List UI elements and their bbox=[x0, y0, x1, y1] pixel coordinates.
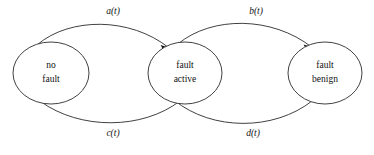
transition-b-t-path bbox=[179, 23, 312, 47]
state-node-no-fault[interactable]: no fault bbox=[13, 42, 89, 104]
state-node-fault-benign[interactable]: fault benign bbox=[288, 42, 362, 104]
transition-d-t-label: d(t) bbox=[246, 128, 260, 139]
transition-a-t-label: a(t) bbox=[106, 6, 120, 17]
transition-b-t: b(t) bbox=[179, 6, 312, 48]
state-fault-benign-label-line1: fault bbox=[316, 60, 334, 70]
state-no-fault-label-line1: no bbox=[46, 60, 56, 70]
state-no-fault-label-line2: fault bbox=[42, 74, 60, 84]
state-fault-active-label-line1: fault bbox=[176, 60, 194, 70]
transition-c-t: c(t) bbox=[41, 100, 181, 139]
transition-c-t-path bbox=[41, 101, 181, 123]
state-fault-active-ellipse[interactable] bbox=[148, 42, 222, 104]
state-fault-active-label-line2: active bbox=[174, 74, 197, 84]
transition-d-t-path bbox=[175, 101, 313, 124]
transition-d-t: d(t) bbox=[175, 99, 313, 139]
state-no-fault-ellipse[interactable] bbox=[13, 42, 89, 104]
state-node-fault-active[interactable]: fault active bbox=[148, 42, 222, 104]
state-fault-benign-ellipse[interactable] bbox=[288, 42, 362, 104]
transition-c-t-label: c(t) bbox=[106, 128, 119, 139]
state-fault-benign-label-line2: benign bbox=[312, 74, 338, 84]
state-diagram-canvas: a(t) b(t) c(t) d(t) no fault bbox=[0, 0, 374, 155]
state-transition-diagram: a(t) b(t) c(t) d(t) no fault bbox=[0, 0, 374, 155]
transition-b-t-label: b(t) bbox=[249, 6, 263, 17]
